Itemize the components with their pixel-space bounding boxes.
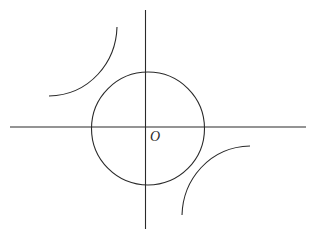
coordinate-diagram — [0, 0, 309, 236]
hyperbola-branch-quadrant-2 — [49, 27, 117, 96]
diagram-canvas: O — [0, 0, 309, 236]
origin-label: O — [150, 129, 160, 145]
circle — [92, 72, 205, 185]
hyperbola-branch-quadrant-4 — [182, 146, 250, 215]
